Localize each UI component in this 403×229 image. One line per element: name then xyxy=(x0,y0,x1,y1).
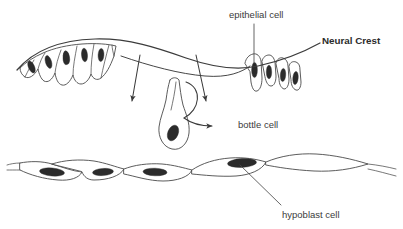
nucleus xyxy=(98,48,104,61)
leader-lines xyxy=(240,24,281,205)
label-bottle-cell: bottle cell xyxy=(238,119,278,130)
nucleus xyxy=(266,65,271,79)
neural-crest-diagram: epithelial cell Neural Crest bottle cell… xyxy=(0,0,403,229)
epithelial-cell-cluster-left xyxy=(20,44,116,86)
nucleus xyxy=(252,62,258,77)
label-epithelial-cell: epithelial cell xyxy=(229,9,283,20)
epithelial-cell-cluster-right xyxy=(245,54,301,91)
diagram-canvas: epithelial cell Neural Crest bottle cell… xyxy=(0,0,403,229)
bottle-cell-shape xyxy=(159,78,189,150)
label-neural-crest: Neural Crest xyxy=(322,35,381,46)
basal-membrane xyxy=(121,56,250,76)
leader-hypoblast-cell xyxy=(240,165,281,205)
epithelial-sheet xyxy=(17,39,320,91)
migration-arrow-left xyxy=(132,55,140,101)
label-hypoblast-cell: hypoblast cell xyxy=(282,209,340,220)
hypoblast-layer xyxy=(7,154,396,181)
ingression-arrow xyxy=(184,82,212,126)
